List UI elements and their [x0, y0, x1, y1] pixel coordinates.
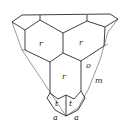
label-r-right: r [79, 38, 84, 47]
label-o: o [86, 61, 91, 70]
label-a-left: a [53, 113, 58, 122]
label-r-bottom: r [62, 72, 67, 81]
crystal-edges [12, 14, 118, 116]
label-t-left: t [55, 99, 59, 108]
label-r-left: r [39, 39, 44, 48]
label-m: m [95, 76, 103, 85]
face-labels: r r r o m t t a a [39, 38, 103, 122]
crystal-diagram: r r r o m t t a a [0, 0, 123, 125]
label-a-right: a [74, 113, 79, 122]
label-t-right: t [69, 99, 73, 108]
